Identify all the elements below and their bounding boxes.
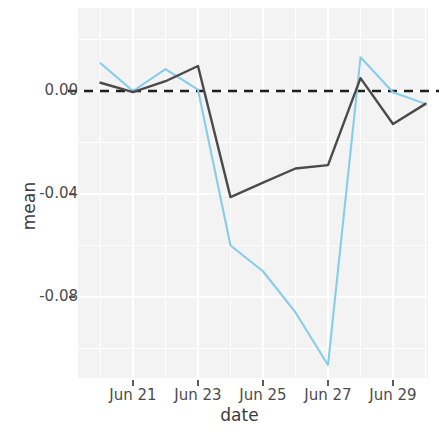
- chart-figure: 0.00 -0.04 -0.08 Jun 21 Jun 23 Jun 25 Ju…: [0, 0, 439, 431]
- x-axis-title: date: [0, 405, 439, 425]
- y-tick-label: -0.04: [39, 184, 78, 202]
- y-tick-label: -0.08: [39, 287, 78, 305]
- x-tick-label: Jun 29: [353, 386, 433, 404]
- y-tick-label: 0.00: [45, 81, 78, 99]
- plot-canvas: [0, 0, 439, 431]
- y-axis-title: mean: [19, 171, 39, 241]
